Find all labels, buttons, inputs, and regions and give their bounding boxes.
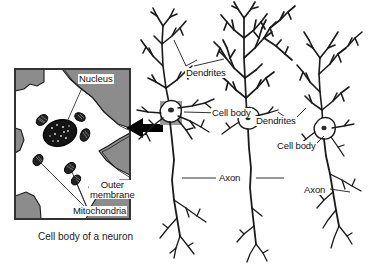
dendrites-right [297,32,362,127]
diagram-canvas [0,0,369,269]
dendrites-left [141,8,192,108]
neuron-diagram-figure: Nucleus Outer membrane Mitochondria Cell… [0,0,369,269]
axon-middle [248,129,256,244]
axon-right [324,139,339,226]
label-mitochondria: Mitochondria [72,206,127,216]
axon-left [170,122,180,236]
dendrites-middle [214,2,295,118]
label-outer-membrane-line2: membrane [90,189,135,200]
label-dendrites-left: Dendrites [185,68,227,78]
label-cell-body-left: Cell body [211,108,252,118]
cell-body-left [160,101,181,123]
label-axon-left: Axon [218,173,241,183]
label-nucleus: Nucleus [78,74,114,84]
axon-terminals-left [160,200,206,258]
neuron-left [137,8,214,258]
label-dendrites-right: Dendrites [255,116,297,126]
label-cell-body-right: Cell body [276,141,317,151]
figure-caption: Cell body of a neuron [38,231,133,242]
label-axon-right: Axon [303,185,326,195]
neuron-middle [214,2,295,262]
label-outer-membrane: Outer membrane [89,180,136,199]
